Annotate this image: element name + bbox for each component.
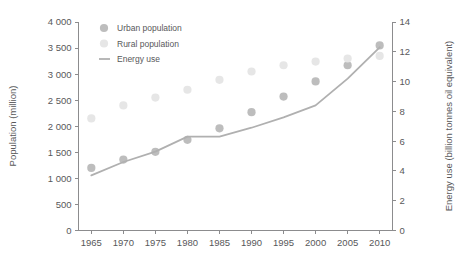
left-tick-label: 2 500 xyxy=(48,95,72,106)
data-point xyxy=(279,61,287,69)
legend-item: Urban population xyxy=(100,23,182,33)
data-point xyxy=(247,67,255,75)
x-tick-label: 2000 xyxy=(305,237,326,248)
data-point xyxy=(87,164,95,172)
series-line-path xyxy=(91,47,379,175)
x-tick-label: 1970 xyxy=(113,237,134,248)
data-point xyxy=(279,92,287,100)
left-tick-label: 3 000 xyxy=(48,69,72,80)
left-y-axis: 05001 0001 5002 0002 5003 0003 5004 000 … xyxy=(7,16,79,236)
right-y-axis: 02468101214 Energy use (billion tonnes o… xyxy=(393,16,455,236)
data-point xyxy=(215,76,223,84)
series-energy-use xyxy=(91,47,379,175)
left-axis-ticks xyxy=(75,22,79,231)
x-axis-tick-labels: 1965197019751980198519901995200020052010 xyxy=(81,237,391,248)
x-tick-label: 1995 xyxy=(273,237,294,248)
legend-item: Rural population xyxy=(100,39,179,49)
right-tick-label: 4 xyxy=(400,165,405,176)
right-tick-label: 8 xyxy=(400,106,405,117)
x-tick-label: 2005 xyxy=(337,237,358,248)
right-tick-label: 14 xyxy=(400,16,411,27)
data-point xyxy=(119,101,127,109)
x-tick-label: 1975 xyxy=(145,237,166,248)
right-tick-label: 2 xyxy=(400,195,405,206)
data-point xyxy=(87,114,95,122)
data-point xyxy=(344,54,352,62)
data-point xyxy=(215,124,223,132)
legend-item-label: Urban population xyxy=(117,23,182,33)
chart-figure: 05001 0001 5002 0002 5003 0003 5004 000 … xyxy=(0,0,465,263)
left-tick-label: 1 500 xyxy=(48,147,72,158)
legend-dot-swatch xyxy=(100,24,108,32)
data-point xyxy=(312,77,320,85)
right-tick-label: 6 xyxy=(400,136,405,147)
left-tick-label: 500 xyxy=(56,199,72,210)
x-tick-label: 1985 xyxy=(209,237,230,248)
x-tick-label: 2010 xyxy=(369,237,390,248)
right-tick-label: 12 xyxy=(400,46,411,57)
right-tick-label: 0 xyxy=(400,225,405,236)
x-axis: 1965197019751980198519901995200020052010 xyxy=(79,231,393,248)
legend-item: Energy use xyxy=(99,54,160,64)
legend-item-label: Rural population xyxy=(117,39,179,49)
x-axis-ticks xyxy=(91,231,379,235)
right-axis-title: Energy use (billion tonnes oil equivalen… xyxy=(443,41,454,212)
right-axis-tick-labels: 02468101214 xyxy=(400,16,411,236)
left-tick-label: 4 000 xyxy=(48,16,72,27)
x-tick-label: 1990 xyxy=(241,237,262,248)
right-tick-label: 10 xyxy=(400,76,411,87)
left-tick-label: 0 xyxy=(66,225,71,236)
data-point xyxy=(312,58,320,66)
legend-item-label: Energy use xyxy=(117,54,160,64)
data-point xyxy=(151,93,159,101)
data-point xyxy=(247,108,255,116)
legend-dot-swatch xyxy=(100,39,108,47)
chart-canvas: 05001 0001 5002 0002 5003 0003 5004 000 … xyxy=(0,0,465,263)
left-tick-label: 2 000 xyxy=(48,121,72,132)
left-tick-label: 1 000 xyxy=(48,173,72,184)
chart-legend: Urban populationRural populationEnergy u… xyxy=(99,23,182,64)
data-point xyxy=(183,86,191,94)
left-tick-label: 3 500 xyxy=(48,42,72,53)
left-axis-title: Population (million) xyxy=(7,86,18,167)
data-point xyxy=(376,52,384,60)
x-tick-label: 1980 xyxy=(177,237,198,248)
left-axis-tick-labels: 05001 0001 5002 0002 5003 0003 5004 000 xyxy=(48,16,72,236)
right-axis-ticks xyxy=(393,22,397,231)
x-tick-label: 1965 xyxy=(81,237,102,248)
